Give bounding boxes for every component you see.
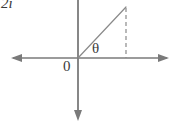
origin-label: 0 [63,59,71,74]
complex-plane-angle-diagram: 2i 0 θ [0,0,174,125]
real-axis-right-arrowhead [158,54,169,62]
imaginary-axis-tick-label: 2i [1,0,13,11]
angle-theta-label: θ [92,41,99,56]
imaginary-axis-bottom-arrowhead [74,110,82,121]
terminal-ray [78,7,126,58]
diagram-canvas [0,0,174,125]
real-axis-left-arrowhead [11,54,22,62]
